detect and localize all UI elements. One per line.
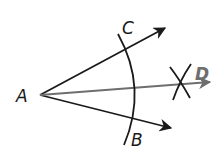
label-b: B [131,130,143,150]
label-d: D [195,64,209,84]
ray-ac [40,28,165,95]
ray-ab [40,95,171,128]
label-c: C [122,18,134,38]
label-a: A [15,86,28,106]
angle-bisector-diagram: A C B D [0,0,224,155]
